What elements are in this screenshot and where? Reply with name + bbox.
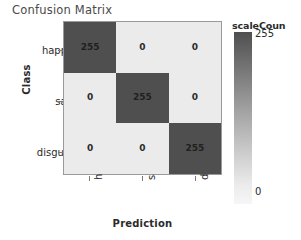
cell-value: 0 [139, 144, 145, 153]
colorbar-max-label: 255 [255, 28, 274, 39]
x-axis-label: Prediction [63, 218, 222, 229]
x-tick-mark [89, 176, 90, 181]
cell-value: 255 [133, 93, 152, 102]
cell-value: 255 [81, 43, 100, 52]
matrix-grid: 255 0 0 0 255 0 0 0 255 [64, 22, 221, 174]
matrix-cell: 0 [64, 123, 116, 174]
matrix-cell: 0 [116, 22, 168, 73]
cell-value: 255 [185, 144, 204, 153]
chart-title: Confusion Matrix [12, 3, 112, 17]
x-tick-mark [142, 176, 143, 181]
cell-value: 0 [87, 144, 93, 153]
matrix-cell: 0 [169, 22, 221, 73]
cell-value: 0 [139, 43, 145, 52]
matrix-cell: 0 [116, 123, 168, 174]
x-tick-mark [195, 176, 196, 181]
cell-value: 0 [87, 93, 93, 102]
cell-value: 0 [192, 43, 198, 52]
confusion-matrix-panel: 255 0 0 0 255 0 0 0 255 [63, 21, 222, 175]
colorbar-min-label: 0 [255, 186, 261, 197]
matrix-cell: 0 [64, 73, 116, 124]
cell-value: 0 [192, 93, 198, 102]
matrix-cell: 0 [169, 73, 221, 124]
matrix-cell: 255 [116, 73, 168, 124]
matrix-cell: 255 [169, 123, 221, 174]
matrix-cell: 255 [64, 22, 116, 73]
chart-canvas: Confusion Matrix Class happy sad disgust… [0, 0, 301, 240]
colorbar-gradient [234, 32, 252, 204]
